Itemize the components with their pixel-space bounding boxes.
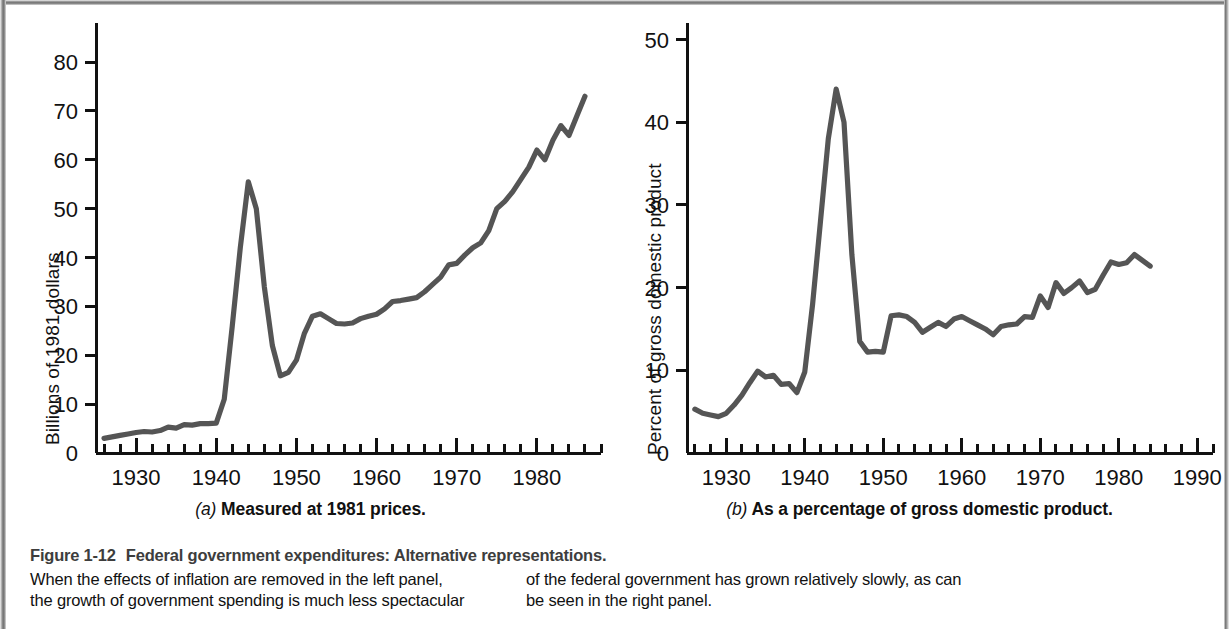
svg-text:1970: 1970 <box>1016 465 1065 490</box>
chart-panels: 0102030405060708019301940195019601970198… <box>6 5 1224 535</box>
panel-b-letter: (b) <box>726 499 747 519</box>
figure-caption-block: Figure 1-12Federal government expenditur… <box>30 546 1205 611</box>
svg-text:40: 40 <box>645 110 669 135</box>
panel-b-subcaption-text: As a percentage of gross domestic produc… <box>751 499 1112 519</box>
figure-title: Federal government expenditures: Alterna… <box>126 546 607 564</box>
panel-a-svg: 0102030405060708019301940195019601970198… <box>6 5 615 497</box>
caption-line: When the effects of inflation are remove… <box>30 569 502 590</box>
figure-root: 0102030405060708019301940195019601970198… <box>0 0 1229 629</box>
panel-a: 0102030405060708019301940195019601970198… <box>6 5 615 535</box>
svg-text:1980: 1980 <box>512 465 561 490</box>
svg-text:1990: 1990 <box>1173 465 1222 490</box>
figure-title-line: Figure 1-12Federal government expenditur… <box>30 546 1205 565</box>
svg-text:50: 50 <box>54 197 78 222</box>
panel-a-letter: (a) <box>195 499 216 519</box>
caption-column-left: When the effects of inflation are remove… <box>30 569 526 611</box>
svg-text:1980: 1980 <box>1094 465 1143 490</box>
svg-text:1960: 1960 <box>352 465 401 490</box>
svg-text:80: 80 <box>54 50 78 75</box>
svg-text:1950: 1950 <box>859 465 908 490</box>
caption-column-right: of the federal government has grown rela… <box>526 569 1126 611</box>
panel-b-plot: 010203040501930194019501960197019801990 <box>615 5 1224 497</box>
caption-line: be seen in the right panel. <box>526 590 1126 611</box>
svg-text:1940: 1940 <box>780 465 829 490</box>
svg-text:60: 60 <box>54 148 78 173</box>
svg-text:70: 70 <box>54 99 78 124</box>
panel-a-subcaption: (a) Measured at 1981 prices. <box>6 499 615 520</box>
svg-text:0: 0 <box>66 441 78 466</box>
svg-text:1950: 1950 <box>272 465 321 490</box>
panel-a-y-axis-title: Billions of 1981 dollars <box>42 252 64 445</box>
svg-text:1970: 1970 <box>432 465 481 490</box>
svg-text:50: 50 <box>645 28 669 53</box>
panel-a-subcaption-text: Measured at 1981 prices. <box>221 499 426 519</box>
panel-b-subcaption: (b) As a percentage of gross domestic pr… <box>615 499 1224 520</box>
svg-text:1930: 1930 <box>112 465 161 490</box>
caption-line: of the federal government has grown rela… <box>526 569 1126 590</box>
panel-b-svg: 010203040501930194019501960197019801990 <box>615 5 1224 497</box>
svg-text:1960: 1960 <box>937 465 986 490</box>
figure-border-right <box>1224 0 1229 629</box>
panel-a-plot: 0102030405060708019301940195019601970198… <box>6 5 615 497</box>
svg-text:1930: 1930 <box>702 465 751 490</box>
caption-line: the growth of government spending is muc… <box>30 590 502 611</box>
panel-b: 010203040501930194019501960197019801990 … <box>615 5 1224 535</box>
caption-columns: When the effects of inflation are remove… <box>30 569 1205 611</box>
panel-b-y-axis-title: Percent of gross domestic product <box>644 163 666 455</box>
svg-text:1940: 1940 <box>192 465 241 490</box>
figure-number: Figure 1-12 <box>30 546 116 564</box>
